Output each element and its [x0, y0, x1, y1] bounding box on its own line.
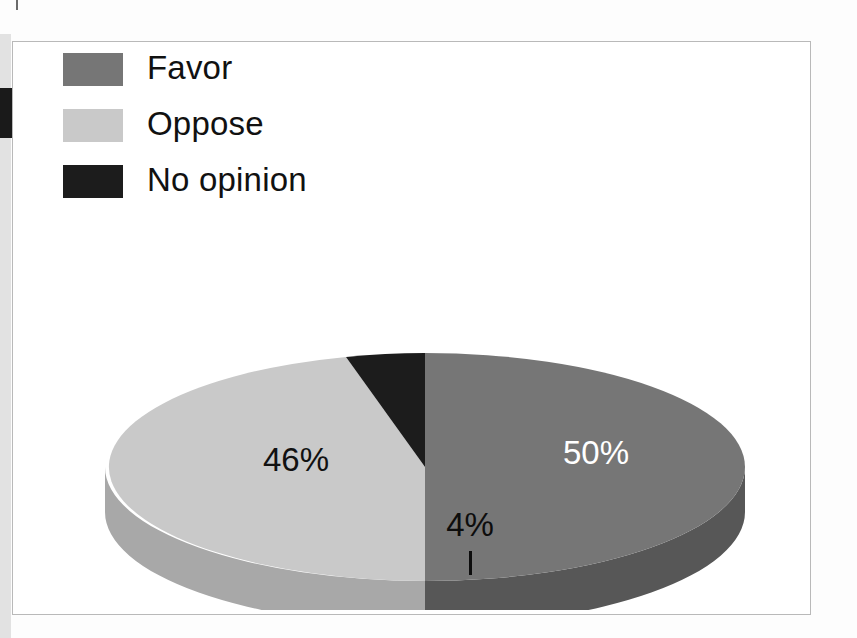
legend-label-favor: Favor [147, 49, 232, 87]
slice-callout-no-opinion: 4% [425, 506, 515, 544]
chart-screenshot: Favor Oppose No opinion [0, 0, 857, 638]
legend-swatch-favor [63, 53, 123, 86]
slice-label-favor: 50% [563, 434, 629, 472]
pie-chart-svg [93, 310, 783, 610]
legend-label-no-opinion: No opinion [147, 161, 307, 199]
scan-edge-tick-mark [16, 0, 18, 10]
legend-label-oppose: Oppose [147, 105, 264, 143]
pie-chart: 4% 46% 50% [93, 310, 783, 610]
legend-swatch-no-opinion [63, 165, 123, 198]
legend-swatch-oppose [63, 109, 123, 142]
slice-callout-leader-line [469, 551, 472, 575]
chart-frame: Favor Oppose No opinion [12, 41, 811, 615]
slice-label-oppose: 46% [263, 441, 329, 479]
